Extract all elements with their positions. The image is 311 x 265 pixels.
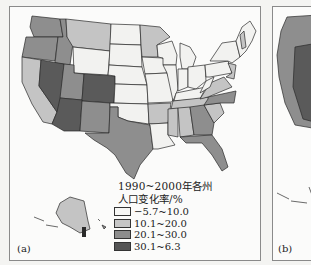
legend-item: 20.1~30.0	[114, 229, 244, 241]
state-ohio	[188, 65, 206, 89]
state-new-york	[210, 41, 240, 63]
legend-item: 10.1~20.0	[114, 218, 244, 230]
legend-label: 30.1~6.3	[134, 241, 181, 252]
state-michigan	[180, 43, 196, 69]
legend-title-line1: 1990~2000年各州	[118, 180, 244, 193]
legend-swatch	[114, 219, 131, 228]
state-florida	[180, 135, 228, 171]
state-wyoming	[73, 47, 110, 75]
map-panel-a: 1990~2000年各州 人口变化率/% −5.7~10.0 10.1~20.0…	[9, 6, 261, 261]
legend-label: 10.1~20.0	[134, 218, 187, 229]
map-legend: 1990~2000年各州 人口变化率/% −5.7~10.0 10.1~20.0…	[114, 180, 244, 252]
panel-label-a: (a)	[17, 243, 31, 254]
state-south-dakota	[109, 44, 142, 67]
map-panel-b: (b)	[272, 6, 311, 261]
state-hawaii	[98, 219, 106, 229]
legend-swatch	[114, 242, 131, 251]
state-colorado	[82, 74, 115, 103]
alaska-panhandle	[82, 227, 86, 237]
state-new-mexico	[80, 101, 110, 133]
state-new-england	[236, 21, 256, 57]
legend-swatch	[114, 230, 131, 239]
legend-label: −5.7~10.0	[134, 206, 189, 217]
state-indiana	[178, 69, 188, 91]
legend-item: 30.1~6.3	[114, 241, 244, 253]
alaska-islands	[34, 217, 58, 227]
legend-item: −5.7~10.0	[114, 206, 244, 218]
state-kansas	[114, 84, 148, 104]
legend-label: 20.1~30.0	[134, 229, 187, 240]
state-oregon	[22, 37, 58, 61]
us-regions-map	[273, 7, 311, 262]
state-montana	[66, 19, 111, 51]
legend-title-line2: 人口变化率/%	[118, 193, 244, 206]
state-mississippi	[168, 108, 178, 137]
panel-label-b: (b)	[278, 243, 292, 254]
alaska-islands-b	[277, 187, 311, 203]
state-arkansas	[148, 103, 171, 124]
state-north-dakota	[110, 24, 141, 45]
legend-swatch	[114, 207, 131, 216]
state-washington	[30, 16, 63, 37]
